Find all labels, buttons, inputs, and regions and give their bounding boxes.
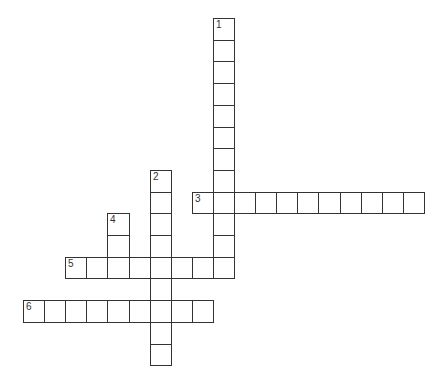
crossword-cell[interactable] (318, 192, 341, 214)
crossword-cell[interactable] (129, 300, 151, 323)
crossword-cell[interactable] (213, 127, 235, 149)
crossword-cell[interactable]: 2 (150, 170, 172, 193)
crossword-cell[interactable] (150, 278, 172, 301)
crossword-cell[interactable]: 1 (213, 18, 235, 41)
clue-number: 2 (153, 171, 159, 182)
crossword-cell[interactable] (213, 213, 235, 236)
crossword-cell[interactable]: 6 (23, 300, 45, 323)
crossword-cell[interactable] (213, 192, 235, 214)
clue-number: 1 (216, 19, 222, 30)
crossword-cell[interactable] (107, 235, 130, 258)
clue-number: 4 (110, 214, 116, 225)
crossword-cell[interactable] (213, 257, 235, 279)
crossword-cell[interactable] (255, 192, 277, 214)
crossword-cell[interactable]: 5 (65, 257, 87, 279)
crossword-cell[interactable] (86, 257, 108, 279)
crossword-cell[interactable] (44, 300, 66, 323)
crossword-cell[interactable] (297, 192, 319, 214)
clue-number: 6 (26, 301, 32, 312)
crossword-cell[interactable] (129, 257, 151, 279)
crossword-cell[interactable] (382, 192, 404, 214)
crossword-cell[interactable] (150, 213, 172, 236)
crossword-cell[interactable] (276, 192, 298, 214)
crossword-cell[interactable] (86, 300, 108, 323)
crossword-cell[interactable] (403, 192, 425, 214)
crossword-cell[interactable] (150, 300, 172, 323)
crossword-cell[interactable] (65, 300, 87, 323)
crossword-cell[interactable] (340, 192, 362, 214)
crossword-cell[interactable] (213, 105, 235, 128)
crossword-cell[interactable] (234, 192, 256, 214)
clue-number: 5 (68, 258, 74, 269)
crossword-cell[interactable] (192, 257, 214, 279)
crossword-cell[interactable] (213, 148, 235, 171)
crossword-cell[interactable] (150, 322, 172, 345)
crossword-cell[interactable] (213, 61, 235, 84)
crossword-cell[interactable] (150, 235, 172, 258)
crossword-cell[interactable]: 3 (192, 192, 214, 214)
crossword-cell[interactable] (150, 257, 172, 279)
crossword-cell[interactable] (171, 300, 193, 323)
crossword-cell[interactable] (213, 40, 235, 62)
crossword-cell[interactable] (107, 257, 130, 279)
crossword-cell[interactable] (213, 235, 235, 258)
crossword-grid: 123456 (0, 0, 446, 390)
crossword-cell[interactable] (150, 344, 172, 366)
crossword-cell[interactable] (213, 83, 235, 106)
crossword-cell[interactable] (213, 170, 235, 193)
crossword-cell[interactable] (171, 257, 193, 279)
crossword-cell[interactable] (107, 300, 130, 323)
crossword-cell[interactable] (361, 192, 383, 214)
clue-number: 3 (195, 193, 201, 204)
crossword-cell[interactable] (192, 300, 214, 323)
crossword-cell[interactable] (150, 192, 172, 214)
crossword-cell[interactable]: 4 (107, 213, 130, 236)
